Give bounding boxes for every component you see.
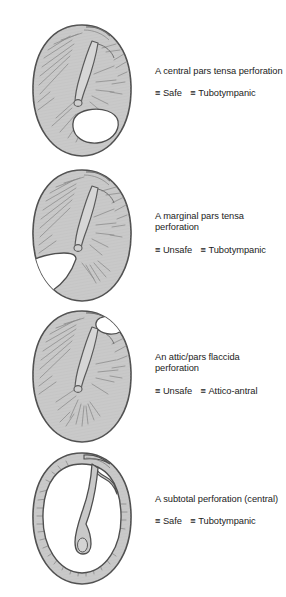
tag-disease-type: ≡Attico-antral bbox=[201, 386, 258, 397]
caption-subtotal-central: A subtotal perforation (central) ≡Safe ≡… bbox=[155, 494, 286, 528]
identical-to-icon: ≡ bbox=[155, 516, 160, 527]
caption-title: An attic/pars flaccida perforation bbox=[155, 352, 286, 375]
identical-to-icon: ≡ bbox=[155, 245, 160, 256]
caption-title: A central pars tensa perforation bbox=[155, 66, 286, 77]
tag-disease-type-label: Tubotympanic bbox=[198, 516, 255, 526]
eardrum-attic-perforation-diagram bbox=[26, 308, 138, 448]
tag-safety-label: Safe bbox=[163, 516, 182, 526]
panel-central-pars-tensa: A central pars tensa perforation ≡Safe ≡… bbox=[0, 22, 286, 162]
caption-central-pars-tensa: A central pars tensa perforation ≡Safe ≡… bbox=[155, 66, 286, 100]
tag-safety: ≡Unsafe bbox=[155, 245, 192, 256]
eardrum-central-perforation-diagram bbox=[26, 22, 138, 162]
eardrum-marginal-perforation-diagram bbox=[26, 167, 138, 307]
caption-tags: ≡Unsafe ≡Attico-antral bbox=[155, 386, 286, 397]
panel-attic-pars-flaccida: An attic/pars flaccida perforation ≡Unsa… bbox=[0, 308, 286, 448]
tag-safety: ≡Unsafe bbox=[155, 386, 192, 397]
tag-safety-label: Unsafe bbox=[163, 245, 192, 255]
identical-to-icon: ≡ bbox=[201, 386, 206, 397]
tag-safety-label: Unsafe bbox=[163, 386, 192, 396]
perforation-types-figure: A central pars tensa perforation ≡Safe ≡… bbox=[0, 0, 286, 597]
eardrum-subtotal-perforation-diagram bbox=[26, 450, 138, 590]
caption-marginal-pars-tensa: A marginal pars tensa perforation ≡Unsaf… bbox=[155, 211, 286, 256]
caption-attic-pars-flaccida: An attic/pars flaccida perforation ≡Unsa… bbox=[155, 352, 286, 397]
identical-to-icon: ≡ bbox=[190, 516, 195, 527]
caption-tags: ≡Safe ≡Tubotympanic bbox=[155, 88, 286, 99]
caption-tags: ≡Safe ≡Tubotympanic bbox=[155, 516, 286, 527]
identical-to-icon: ≡ bbox=[155, 88, 160, 99]
tag-disease-type: ≡Tubotympanic bbox=[190, 88, 255, 99]
identical-to-icon: ≡ bbox=[190, 88, 195, 99]
tag-disease-type: ≡Tubotympanic bbox=[190, 516, 255, 527]
caption-tags: ≡Unsafe ≡Tubotympanic bbox=[155, 245, 286, 256]
panel-marginal-pars-tensa: A marginal pars tensa perforation ≡Unsaf… bbox=[0, 167, 286, 307]
tag-safety-label: Safe bbox=[163, 88, 182, 98]
caption-title: A marginal pars tensa perforation bbox=[155, 211, 286, 234]
tag-disease-type: ≡Tubotympanic bbox=[201, 245, 266, 256]
identical-to-icon: ≡ bbox=[155, 386, 160, 397]
identical-to-icon: ≡ bbox=[201, 245, 206, 256]
tag-safety: ≡Safe bbox=[155, 88, 182, 99]
tag-disease-type-label: Tubotympanic bbox=[198, 88, 255, 98]
tag-disease-type-label: Tubotympanic bbox=[208, 245, 265, 255]
caption-title: A subtotal perforation (central) bbox=[155, 494, 286, 505]
tag-safety: ≡Safe bbox=[155, 516, 182, 527]
tag-disease-type-label: Attico-antral bbox=[208, 386, 257, 396]
panel-subtotal-central: A subtotal perforation (central) ≡Safe ≡… bbox=[0, 450, 286, 590]
